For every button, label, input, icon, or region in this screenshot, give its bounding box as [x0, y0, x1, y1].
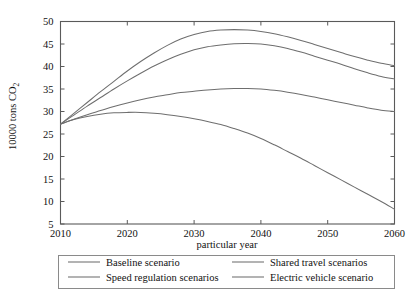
line-chart-svg: 5101520253035404550 20102020203020402050…	[0, 0, 417, 291]
plot-frame	[61, 22, 395, 225]
chart-figure: 5101520253035404550 20102020203020402050…	[0, 0, 417, 291]
y-tick-label: 10	[43, 196, 54, 207]
data-series-group	[61, 30, 395, 210]
y-tick-label: 15	[43, 174, 54, 185]
series-line-2	[61, 88, 395, 124]
x-tick-label: 2050	[317, 228, 338, 239]
legend-label-1: Shared travel scenarios	[270, 257, 367, 268]
x-tick-label: 2020	[117, 228, 138, 239]
y-tick-label: 25	[43, 129, 54, 140]
legend-label-2: Speed regulation scenarios	[106, 272, 219, 283]
x-tick-label: 2040	[250, 228, 271, 239]
y-tick-label: 30	[43, 106, 54, 117]
series-line-3	[61, 112, 395, 209]
y-axis-title-subscript: 2	[12, 82, 21, 86]
y-tick-label: 45	[43, 39, 54, 50]
x-tick-label: 2010	[50, 228, 71, 239]
y-tick-label: 50	[43, 16, 54, 27]
y-axis-title: 10000 tons CO2	[7, 82, 21, 150]
x-axis-title: particular year	[197, 239, 258, 250]
y-tick-label: 40	[43, 61, 54, 72]
y-axis-title-text: 10000 tons CO	[7, 86, 18, 150]
svg-text:10000 tons CO2: 10000 tons CO2	[7, 82, 21, 150]
x-axis: 201020202030204020502060	[50, 22, 405, 240]
x-tick-label: 2030	[184, 228, 205, 239]
legend-label-0: Baseline scenario	[106, 257, 180, 268]
y-tick-label: 20	[43, 151, 54, 162]
legend-label-3: Electric vehicle scenario	[270, 272, 373, 283]
y-tick-label: 35	[43, 84, 54, 95]
chart-legend: Baseline scenarioShared travel scenarios…	[59, 256, 395, 289]
y-axis: 5101520253035404550	[43, 16, 395, 230]
x-tick-label: 2060	[384, 228, 405, 239]
